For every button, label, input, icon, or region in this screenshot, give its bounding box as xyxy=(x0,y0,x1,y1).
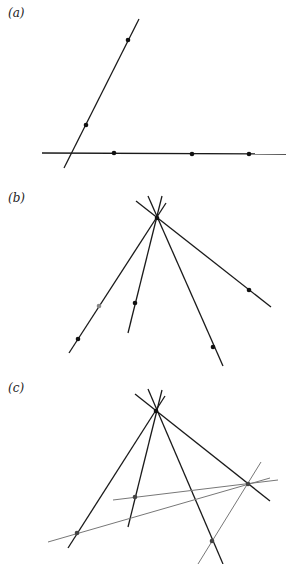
point xyxy=(210,539,215,544)
point xyxy=(211,345,216,350)
panel-label-b: (b) xyxy=(8,191,25,205)
point xyxy=(247,288,252,293)
point xyxy=(190,152,195,157)
panel-label-c: (c) xyxy=(8,381,24,395)
panel-b xyxy=(69,196,271,366)
point xyxy=(246,482,251,487)
line xyxy=(148,389,223,564)
point xyxy=(97,304,102,309)
point xyxy=(133,301,138,306)
point xyxy=(112,151,117,156)
point xyxy=(154,409,159,414)
panel-a xyxy=(42,19,286,168)
point xyxy=(84,123,89,128)
geometry-diagram xyxy=(0,0,289,564)
point xyxy=(155,216,160,221)
panel-label-a: (a) xyxy=(8,6,25,20)
line xyxy=(198,462,261,564)
line xyxy=(148,196,223,366)
point xyxy=(75,531,80,536)
point xyxy=(126,38,131,43)
panel-c xyxy=(48,389,278,564)
line xyxy=(69,203,166,353)
point xyxy=(76,337,81,342)
line xyxy=(68,396,165,548)
point xyxy=(247,152,252,157)
line xyxy=(48,478,270,542)
point xyxy=(133,495,138,500)
